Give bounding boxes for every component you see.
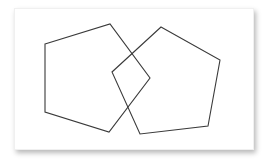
pentagon-diagram	[0, 0, 268, 161]
left-pentagon	[45, 24, 150, 132]
right-pentagon	[112, 27, 220, 134]
